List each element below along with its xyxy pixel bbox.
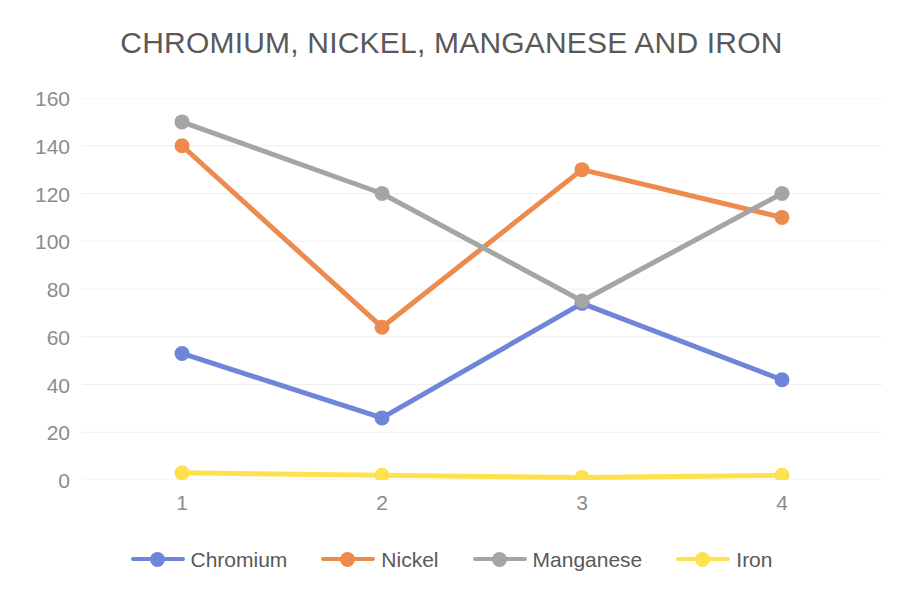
data-point-iron-3 <box>575 470 590 480</box>
series-lines <box>182 122 782 478</box>
data-point-nickel-1 <box>175 138 190 153</box>
data-point-manganese-4 <box>775 186 790 201</box>
data-point-manganese-1 <box>175 114 190 129</box>
legend-item-manganese[interactable]: Manganese <box>473 549 643 570</box>
legend-label: Nickel <box>381 549 438 570</box>
series-line-manganese <box>182 122 782 301</box>
legend-label: Iron <box>736 549 772 570</box>
series-line-chromium <box>182 303 782 418</box>
x-tick-label: 4 <box>742 492 822 513</box>
y-axis: 160140120100806040200 <box>8 98 70 480</box>
y-tick-label: 0 <box>10 470 70 491</box>
series-markers <box>175 114 790 480</box>
x-axis: 1234 <box>82 492 882 526</box>
legend-swatch-icon <box>131 551 185 567</box>
line-chart: CHROMIUM, NICKEL, MANGANESE AND IRON 160… <box>0 0 903 594</box>
legend-swatch-icon <box>473 551 527 567</box>
y-tick-label: 160 <box>10 88 70 109</box>
series-line-nickel <box>182 146 782 327</box>
legend-swatch-icon <box>321 551 375 567</box>
chart-legend: ChromiumNickelManganeseIron <box>0 541 903 577</box>
data-point-manganese-3 <box>575 293 590 308</box>
legend-item-iron[interactable]: Iron <box>676 549 772 570</box>
data-point-nickel-4 <box>775 210 790 225</box>
y-tick-label: 120 <box>10 183 70 204</box>
y-tick-label: 60 <box>10 326 70 347</box>
series-line-iron <box>182 473 782 478</box>
y-tick-label: 100 <box>10 231 70 252</box>
legend-swatch-icon <box>676 551 730 567</box>
data-point-nickel-3 <box>575 162 590 177</box>
legend-label: Manganese <box>533 549 643 570</box>
y-tick-label: 80 <box>10 279 70 300</box>
data-point-chromium-2 <box>375 410 390 425</box>
chart-title: CHROMIUM, NICKEL, MANGANESE AND IRON <box>0 26 903 60</box>
x-tick-label: 1 <box>142 492 222 513</box>
plot-area <box>82 98 882 480</box>
data-point-nickel-2 <box>375 320 390 335</box>
data-point-iron-1 <box>175 465 190 480</box>
data-point-manganese-2 <box>375 186 390 201</box>
legend-item-chromium[interactable]: Chromium <box>131 549 288 570</box>
legend-item-nickel[interactable]: Nickel <box>321 549 438 570</box>
x-tick-label: 2 <box>342 492 422 513</box>
y-tick-label: 40 <box>10 374 70 395</box>
gridlines <box>82 98 882 480</box>
legend-label: Chromium <box>191 549 288 570</box>
data-point-chromium-4 <box>775 372 790 387</box>
plot-svg <box>82 98 882 480</box>
y-tick-label: 20 <box>10 422 70 443</box>
data-point-iron-2 <box>375 468 390 480</box>
data-point-chromium-1 <box>175 346 190 361</box>
data-point-iron-4 <box>775 468 790 480</box>
y-tick-label: 140 <box>10 135 70 156</box>
x-tick-label: 3 <box>542 492 622 513</box>
